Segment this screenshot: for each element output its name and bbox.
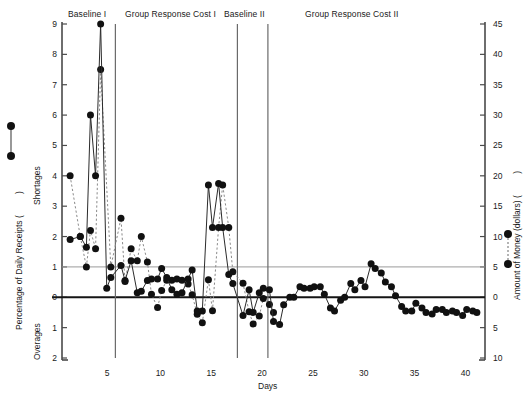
x-tick-label-10: 10: [156, 368, 165, 378]
data-point: [205, 181, 212, 188]
data-point: [270, 309, 277, 316]
data-point: [362, 283, 369, 290]
data-point: [331, 307, 338, 314]
data-point: [260, 285, 267, 292]
data-point: [256, 313, 263, 320]
data-point: [185, 276, 192, 283]
data-point: [148, 276, 155, 283]
data-point: [250, 309, 257, 316]
y-tick-label-left-11: 2: [46, 353, 57, 363]
y-tick-label-left-7: 2: [46, 232, 57, 242]
data-point: [77, 233, 84, 240]
data-point: [229, 280, 236, 287]
data-point: [154, 304, 161, 311]
data-point: [250, 320, 257, 327]
data-point: [117, 262, 124, 269]
y-axis-right-title: Amount of Money (dollars) ( ): [512, 171, 522, 300]
data-point: [240, 312, 247, 319]
data-point: [138, 288, 145, 295]
data-point: [321, 291, 328, 298]
data-point: [378, 269, 385, 276]
y-tick-label-left-0: 9: [46, 19, 57, 29]
y-axis-right-legend-placeholder: [512, 174, 522, 195]
data-point: [382, 279, 389, 286]
y-tick-label-right-0: 45: [493, 19, 502, 29]
data-point: [408, 307, 415, 314]
data-point: [144, 259, 151, 266]
data-point: [107, 263, 114, 270]
data-point: [453, 309, 460, 316]
data-point: [311, 283, 318, 290]
data-point: [128, 245, 135, 252]
data-point: [87, 227, 94, 234]
y-tick-label-left-10: 1: [46, 323, 57, 333]
y-axis-left-inner-overages: Overages: [32, 323, 42, 360]
data-point: [412, 300, 419, 307]
y-tick-label-right-9: 0: [493, 292, 498, 302]
data-point: [158, 287, 165, 294]
data-point: [388, 283, 395, 290]
y-tick-label-right-6: 15: [493, 201, 502, 211]
data-point: [83, 244, 90, 251]
data-point: [158, 265, 165, 272]
legend-right-dot-top: [504, 230, 512, 238]
data-point: [199, 307, 206, 314]
y-axis-left-inner-shortages: Shortages: [32, 166, 42, 205]
data-point: [443, 309, 450, 316]
y-tick-label-right-4: 25: [493, 140, 502, 150]
x-tick-label-20: 20: [257, 368, 266, 378]
data-point: [199, 319, 206, 326]
data-point: [317, 283, 324, 290]
chart-canvas: Baseline I Group Response Cost I Baselin…: [0, 0, 527, 402]
data-point: [163, 274, 170, 281]
data-point: [92, 172, 99, 179]
data-point: [402, 307, 409, 314]
y-tick-label-right-11: 10: [493, 353, 502, 363]
data-point: [290, 294, 297, 301]
y-tick-label-left-8: 1: [46, 262, 57, 272]
x-tick-label-30: 30: [359, 368, 368, 378]
data-point: [148, 291, 155, 298]
data-point: [87, 112, 94, 119]
data-point: [276, 321, 283, 328]
y-tick-label-left-5: 4: [46, 171, 57, 181]
data-point: [67, 236, 74, 243]
data-point: [128, 257, 135, 264]
y-tick-label-right-10: 5: [493, 323, 498, 333]
data-point: [341, 294, 348, 301]
y-axis-left-legend-placeholder: [14, 194, 24, 215]
data-point: [473, 309, 480, 316]
data-point: [392, 292, 399, 299]
data-point: [122, 277, 129, 284]
data-point: [372, 265, 379, 272]
data-point: [459, 312, 466, 319]
data-point: [351, 286, 358, 293]
y-tick-label-left-6: 3: [46, 201, 57, 211]
data-point: [92, 245, 99, 252]
legend-left-dot-bottom: [7, 152, 15, 160]
y-tick-label-left-2: 7: [46, 80, 57, 90]
data-point: [154, 276, 161, 283]
data-point: [138, 233, 145, 240]
series-path-solid: [70, 24, 477, 325]
x-tick-label-15: 15: [206, 368, 215, 378]
y-tick-label-right-8: 5: [493, 262, 498, 272]
data-point: [225, 224, 232, 231]
data-point: [240, 280, 247, 287]
data-point: [107, 274, 114, 281]
y-tick-label-left-9: 0: [46, 292, 57, 302]
y-axis-left-title-text: Percentage of Daily Receipts (: [14, 215, 24, 330]
data-point: [103, 285, 110, 292]
data-point: [209, 224, 216, 231]
data-point: [215, 180, 222, 187]
data-point: [189, 266, 196, 273]
data-point: [225, 271, 232, 278]
data-point: [357, 277, 364, 284]
y-tick-label-right-2: 35: [493, 80, 502, 90]
data-point: [178, 277, 185, 284]
data-point: [83, 263, 90, 270]
y-tick-label-right-5: 20: [493, 171, 502, 181]
data-point: [260, 295, 267, 302]
data-point: [178, 289, 185, 296]
legend-right-dot-bottom: [504, 260, 512, 268]
